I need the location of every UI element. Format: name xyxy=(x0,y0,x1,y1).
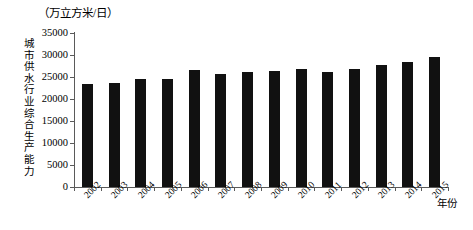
x-axis-title: 年份 xyxy=(437,195,457,210)
bar xyxy=(402,62,413,187)
bar xyxy=(322,72,333,187)
bar-chart: （万立方米/日） 城市供水行业综合生产能力 050001000015000200… xyxy=(0,0,473,230)
bar xyxy=(135,79,146,187)
bar xyxy=(109,83,120,187)
plot-area xyxy=(74,33,448,187)
bar xyxy=(296,69,307,187)
y-tick-label-text: 10000 xyxy=(22,138,68,148)
y-tick-label-text: 15000 xyxy=(22,116,68,126)
y-tick-label: 10000 xyxy=(16,138,68,148)
bar xyxy=(82,84,93,187)
bar xyxy=(215,74,226,187)
y-tick-label: 30000 xyxy=(16,50,68,60)
y-tick-label: 0 xyxy=(16,182,68,192)
y-tick-label-text: 5000 xyxy=(22,160,68,170)
x-tick-mark xyxy=(74,188,75,191)
y-tick-label-text: 20000 xyxy=(22,94,68,104)
y-tick-label-text: 30000 xyxy=(22,50,68,60)
bar xyxy=(349,69,360,187)
bar xyxy=(242,72,253,187)
y-tick-label-text: 0 xyxy=(22,182,68,192)
x-tick-mark xyxy=(101,188,102,191)
y-tick-label-text: 25000 xyxy=(22,72,68,82)
chart-unit-caption: （万立方米/日） xyxy=(38,6,118,20)
bar xyxy=(269,71,280,187)
bar xyxy=(376,65,387,187)
bar xyxy=(189,70,200,187)
y-tick-label-text: 35000 xyxy=(22,28,68,38)
y-tick-label: 35000 xyxy=(16,28,68,38)
x-tick-mark xyxy=(288,188,289,191)
bar xyxy=(162,79,173,187)
y-tick-label: 25000 xyxy=(16,72,68,82)
bar xyxy=(429,57,440,187)
y-tick-label: 20000 xyxy=(16,94,68,104)
y-tick-label: 5000 xyxy=(16,160,68,170)
y-tick-label: 15000 xyxy=(16,116,68,126)
